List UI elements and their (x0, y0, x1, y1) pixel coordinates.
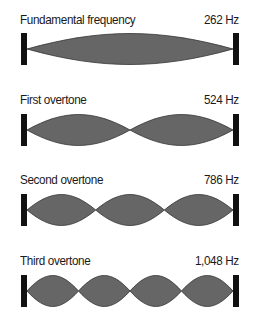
row-frequency: 262 Hz (204, 12, 239, 27)
row-frequency: 786 Hz (204, 172, 239, 187)
wave-loop (130, 115, 233, 146)
wave-loop (96, 195, 165, 226)
left-fixed-end-bar (21, 194, 27, 226)
row-third-overtone: Third overtone 1,048 Hz (0, 253, 254, 320)
wave-loop (27, 115, 130, 146)
wave-loop (27, 34, 233, 65)
row-label: First overtone (20, 92, 86, 107)
wave-loop (182, 276, 234, 307)
left-fixed-end-bar (21, 275, 27, 307)
row-frequency: 524 Hz (204, 92, 239, 107)
wave-loop (79, 276, 131, 307)
wave-loop (27, 195, 96, 226)
right-fixed-end-bar (233, 114, 239, 146)
row-label: Third overtone (20, 253, 90, 268)
row-frequency: 1,048 Hz (195, 253, 239, 268)
left-fixed-end-bar (21, 33, 27, 65)
standing-wave (0, 275, 254, 320)
right-fixed-end-bar (233, 33, 239, 65)
row-second-overtone: Second overtone 786 Hz (0, 172, 254, 252)
right-fixed-end-bar (233, 275, 239, 307)
row-first-overtone: First overtone 524 Hz (0, 92, 254, 172)
wave-loop (164, 195, 233, 226)
wave-loop (130, 276, 182, 307)
standing-wave (0, 33, 254, 93)
row-label: Fundamental frequency (20, 12, 135, 27)
row-label: Second overtone (20, 172, 103, 187)
left-fixed-end-bar (21, 114, 27, 146)
standing-wave (0, 194, 254, 254)
standing-wave (0, 114, 254, 174)
right-fixed-end-bar (233, 194, 239, 226)
row-fundamental: Fundamental frequency 262 Hz (0, 12, 254, 92)
wave-loop (27, 276, 79, 307)
